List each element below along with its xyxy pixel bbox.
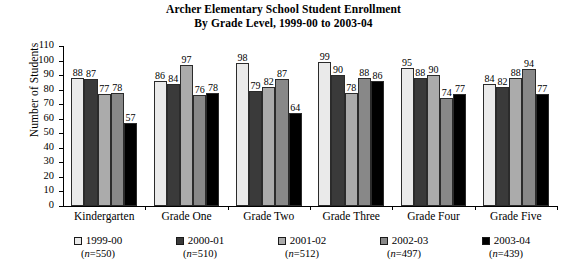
bar[interactable]: 97 [180,65,193,206]
legend-sample-size: (n=512) [256,247,348,260]
bar-value-label: 94 [524,58,534,69]
bar[interactable]: 79 [249,91,262,206]
bar-value-label: 86 [373,70,383,81]
y-axis-title: Number of Students [28,10,40,170]
bar[interactable]: 82 [262,87,275,206]
legend-swatch-icon [176,237,184,245]
x-axis-category-label: Grade Four [392,210,474,222]
bar-value-label: 88 [415,67,425,78]
bar-value-label: 98 [237,52,247,63]
bar[interactable]: 88 [509,78,522,206]
bar[interactable]: 78 [111,93,124,206]
legend-item[interactable]: 2002-03(n=497) [358,234,450,260]
bar-value-label: 84 [168,73,178,84]
bar-group: 9588907477 [401,46,467,206]
x-axis-category-label: Grade One [145,210,227,222]
x-axis-category-label: Kindergarten [63,210,145,222]
chart-subtitle: By Grade Level, 1999-00 to 2003-04 [0,16,567,30]
y-axis-tick-label: 60 [44,112,55,123]
bar[interactable]: 86 [154,81,167,206]
bar[interactable]: 57 [124,123,137,206]
bar[interactable]: 95 [401,68,414,206]
legend-swatch-icon [482,237,490,245]
chart-legend: 1999-00(n=550)2000-01(n=510)2001-02(n=51… [52,234,552,260]
bar-value-label: 77 [455,83,465,94]
y-axis-tick-label: 10 [44,184,55,195]
bar[interactable]: 77 [98,94,111,206]
bar-value-label: 76 [195,84,205,95]
bar-value-label: 86 [155,70,165,81]
y-axis-tick: 70 [59,104,63,105]
bar[interactable]: 82 [496,87,509,206]
x-axis-category-label: Grade Five [475,210,557,222]
bar-value-label: 88 [511,67,521,78]
y-axis-tick-label: 70 [44,97,55,108]
legend-sample-size: (n=439) [460,247,552,260]
y-axis-tick-label: 0 [49,199,54,210]
bar-group: 8887777857 [71,46,137,206]
bar[interactable]: 77 [536,94,549,206]
bar-value-label: 74 [442,87,452,98]
bar[interactable]: 88 [358,78,371,206]
y-axis-tick: 110 [59,46,63,47]
bar-value-label: 95 [402,57,412,68]
bar[interactable]: 77 [453,94,466,206]
bar[interactable]: 84 [483,84,496,206]
bar[interactable]: 99 [318,62,331,206]
bar[interactable]: 90 [331,75,344,206]
legend-row: 1999-00 [52,234,144,247]
bar[interactable]: 88 [71,78,84,206]
bar-value-label: 64 [290,102,300,113]
bar[interactable]: 78 [345,93,358,206]
y-axis-tick: 100 [59,61,63,62]
bar[interactable]: 98 [236,63,249,206]
plot-area: 01020304050607080901001108887777857Kinde… [63,46,557,207]
y-axis-tick: 80 [59,90,63,91]
y-axis-tick-label: 100 [38,54,54,65]
bar-value-label: 88 [359,67,369,78]
legend-row: 2003-04 [460,234,552,247]
bar[interactable]: 64 [289,113,302,206]
y-axis-tick: 50 [59,133,63,134]
bar[interactable]: 87 [275,79,288,206]
bar[interactable]: 90 [427,75,440,206]
bar[interactable]: 88 [414,78,427,206]
bar-value-label: 82 [264,76,274,87]
bar-value-label: 88 [73,67,83,78]
legend-item[interactable]: 2003-04(n=439) [460,234,552,260]
bar[interactable]: 74 [440,98,453,206]
y-axis-tick-label: 110 [39,39,54,50]
bar[interactable]: 84 [167,84,180,206]
legend-item[interactable]: 2000-01(n=510) [154,234,246,260]
legend-item[interactable]: 2001-02(n=512) [256,234,348,260]
legend-series-label: 2002-03 [392,234,429,247]
bar-value-label: 84 [484,73,494,84]
legend-series-label: 2001-02 [290,234,327,247]
bar[interactable]: 87 [84,79,97,206]
x-axis-category-label: Grade Two [228,210,310,222]
bar[interactable]: 94 [522,69,535,206]
x-axis-tick [557,206,558,210]
legend-row: 2002-03 [358,234,450,247]
bar[interactable]: 86 [371,81,384,206]
bar-group: 8684977678 [154,46,220,206]
y-axis-tick-label: 40 [44,141,55,152]
page-title: Archer Elementary School Student Enrollm… [0,2,567,16]
legend-swatch-icon [74,237,82,245]
legend-swatch-icon [380,237,388,245]
y-axis-tick-label: 30 [44,155,55,166]
bar-value-label: 97 [181,54,191,65]
y-axis-tick: 0 [59,206,63,207]
bar-value-label: 77 [99,83,109,94]
bar[interactable]: 76 [193,95,206,206]
legend-swatch-icon [278,237,286,245]
y-axis-tick-label: 90 [44,68,55,79]
bar-value-label: 87 [277,68,287,79]
bar-value-label: 87 [86,68,96,79]
legend-series-label: 2000-01 [188,234,225,247]
bar[interactable]: 78 [206,93,219,206]
bar-value-label: 90 [428,64,438,75]
y-axis-tick: 30 [59,162,63,163]
legend-item[interactable]: 1999-00(n=550) [52,234,144,260]
bar-value-label: 57 [126,112,136,123]
